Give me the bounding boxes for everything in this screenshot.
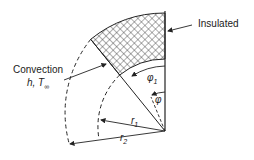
convection-label: Convection	[13, 65, 63, 75]
r1-label: r1	[131, 116, 138, 128]
convection-params-label: h, T∞	[27, 78, 49, 90]
outer-dashed-arc	[65, 39, 91, 143]
phi-label: φ	[155, 95, 162, 105]
inner-dashed-arc	[98, 75, 120, 139]
phi1-subscript: 1	[154, 78, 158, 85]
r1-subscript: 1	[134, 121, 138, 128]
insulated-pointer	[168, 25, 192, 31]
phi1-label: φ1	[147, 73, 157, 85]
r2-label: r2	[120, 133, 127, 145]
r2-arrow	[70, 131, 165, 144]
infinity-subscript: ∞	[44, 83, 49, 90]
h-tinf-text: h, T	[27, 77, 44, 88]
r2-subscript: 2	[123, 138, 127, 145]
insulated-label: Insulated	[198, 19, 239, 29]
convection-pointer	[64, 64, 106, 80]
